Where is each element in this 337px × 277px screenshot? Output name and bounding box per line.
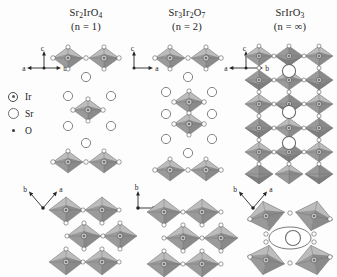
order-sr2iro4: (n = 1) xyxy=(46,20,126,33)
formula-sr3ir2o7: Sr3Ir2O7 xyxy=(145,6,229,20)
axis-label-b: b xyxy=(23,185,27,194)
legend-item-o: O xyxy=(6,122,54,139)
structure-sr3ir2o7-side-view xyxy=(152,44,228,176)
axis-label-a: a xyxy=(269,185,273,194)
legend-label-sr: Sr xyxy=(25,109,33,119)
sr-atom-icon xyxy=(6,108,20,119)
structure-sr2iro4-side-view xyxy=(52,44,130,176)
legend-item-ir: Ir xyxy=(6,88,54,105)
formula-sriro3: SrIrO3 xyxy=(250,6,330,20)
legend-label-o: O xyxy=(25,126,32,136)
structure-sr2iro4-plan-view xyxy=(58,198,136,276)
order-sr3ir2o7: (n = 2) xyxy=(145,20,229,33)
sr-cavity xyxy=(282,105,295,118)
structure-sriro3-plan-view xyxy=(248,200,334,276)
axis-label-a: a xyxy=(59,185,63,194)
legend-item-sr: Sr xyxy=(6,105,54,122)
crystal-structure-figure: Sr2IrO4 (n = 1) Sr3Ir2O7 (n = 2) SrIrO3 … xyxy=(0,0,337,277)
axis-label-c: c xyxy=(41,44,45,53)
axis-label-c: c xyxy=(131,44,135,53)
structure-sriro3-side-view xyxy=(243,44,335,176)
column-title-sr2iro4: Sr2IrO4 (n = 1) xyxy=(46,6,126,33)
atom-legend: Ir Sr O xyxy=(6,88,54,139)
ir-atom-icon xyxy=(6,92,20,102)
formula-sr2iro4: Sr2IrO4 xyxy=(46,6,126,20)
sr-cavity xyxy=(282,64,295,77)
axis-label-b: b xyxy=(135,183,139,192)
axis-label-b: b xyxy=(233,185,237,194)
order-sriro3: (n = ∞) xyxy=(250,20,330,33)
column-title-sr3ir2o7: Sr3Ir2O7 (n = 2) xyxy=(145,6,229,33)
structure-sr3ir2o7-plan-view xyxy=(152,198,230,276)
legend-label-ir: Ir xyxy=(25,92,31,102)
sr-cavity xyxy=(282,136,295,149)
sr-cavity xyxy=(286,231,301,246)
o-atom-icon xyxy=(6,129,20,132)
axis-label-a: a xyxy=(22,64,26,73)
column-title-sriro3: SrIrO3 (n = ∞) xyxy=(250,6,330,33)
